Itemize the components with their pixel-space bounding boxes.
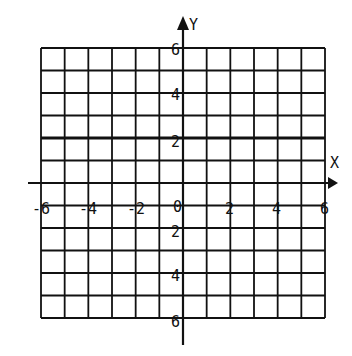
y-tick-label: 2	[171, 133, 180, 151]
x-tick-label: 4	[272, 200, 281, 218]
y-tick-label: 4	[171, 86, 180, 104]
x-axis-label: X	[330, 154, 339, 172]
y-tick-label: 6	[171, 313, 180, 331]
y-axis-label: Y	[189, 16, 198, 34]
y-tick-labels: 6 4 2 0 2 4 6	[171, 41, 182, 331]
y-tick-label: 4	[171, 267, 180, 285]
y-tick-label: 2	[171, 223, 180, 241]
x-tick-label: -4	[79, 200, 97, 218]
coordinate-grid: X Y -6 -4 -2 2 4 6 6 4 2 0 2 4 6	[0, 0, 352, 356]
x-axis-arrow-icon	[328, 177, 338, 189]
x-tick-label: -6	[32, 200, 50, 218]
x-tick-label: -2	[127, 200, 145, 218]
x-tick-label: 2	[225, 200, 234, 218]
origin-label: 0	[173, 198, 182, 216]
y-tick-label: 6	[171, 41, 180, 59]
x-tick-label: 6	[320, 200, 329, 218]
y-axis-arrow-icon	[177, 16, 189, 30]
